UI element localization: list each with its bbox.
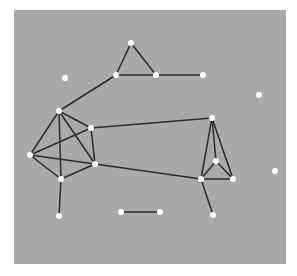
edge-F-H xyxy=(131,43,156,75)
node-A xyxy=(56,108,62,114)
edge-L-N xyxy=(201,179,213,215)
edge-D-E xyxy=(61,164,95,179)
node-S xyxy=(256,92,262,98)
node-G xyxy=(113,72,119,78)
edge-L-D xyxy=(95,164,201,179)
node-H xyxy=(153,72,159,78)
node-N xyxy=(210,212,216,218)
edge-A-E xyxy=(59,111,61,179)
node-P xyxy=(118,209,124,215)
node-J xyxy=(209,115,215,121)
edge-A-B xyxy=(59,111,91,128)
node-B xyxy=(88,125,94,131)
node-D xyxy=(92,161,98,167)
network-graph xyxy=(0,0,297,276)
diagram-canvas xyxy=(0,0,297,276)
node-layer xyxy=(27,40,278,219)
edge-A-D xyxy=(59,111,95,164)
edge-F-G xyxy=(116,43,131,75)
node-T xyxy=(272,168,278,174)
node-I xyxy=(200,72,206,78)
node-E xyxy=(58,176,64,182)
node-F xyxy=(128,40,134,46)
edge-J-L xyxy=(201,118,212,179)
edge-J-B xyxy=(91,118,212,128)
edge-layer xyxy=(30,43,233,216)
node-L xyxy=(198,176,204,182)
node-M xyxy=(230,176,236,182)
edge-E-O xyxy=(59,179,61,216)
node-R xyxy=(62,75,68,81)
node-K xyxy=(213,158,219,164)
node-O xyxy=(56,213,62,219)
edge-G-A xyxy=(59,75,116,111)
node-Q xyxy=(157,209,163,215)
node-C xyxy=(27,152,33,158)
